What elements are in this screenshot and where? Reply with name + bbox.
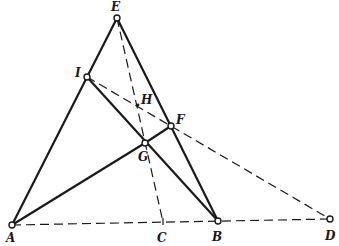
point-f (168, 123, 174, 129)
point-a (9, 222, 15, 228)
label-i: I (74, 66, 81, 80)
label-d: D (324, 229, 336, 243)
dashed-segment-ec (117, 18, 163, 222)
label-g: G (138, 150, 148, 164)
point-b (215, 218, 221, 224)
point-h (137, 104, 140, 107)
dashed-segment-ad (12, 219, 330, 225)
point-e (114, 15, 120, 21)
segment-gf (145, 126, 171, 143)
geometry-diagram: ABCDEFGHI (0, 0, 339, 246)
label-e: E (110, 0, 121, 14)
point-i (84, 74, 90, 80)
label-f: F (175, 113, 186, 127)
point-d (327, 216, 333, 222)
dashed-lines (12, 18, 330, 225)
label-a: A (5, 231, 15, 245)
segment-ib (87, 77, 218, 221)
point-g (142, 140, 148, 146)
solid-lines (12, 18, 218, 225)
segment-eb (117, 18, 218, 221)
dashed-segment-id (87, 77, 330, 219)
label-b: B (211, 230, 222, 244)
label-h: H (140, 93, 153, 107)
label-c: C (157, 231, 167, 245)
segment-ae (12, 18, 117, 225)
